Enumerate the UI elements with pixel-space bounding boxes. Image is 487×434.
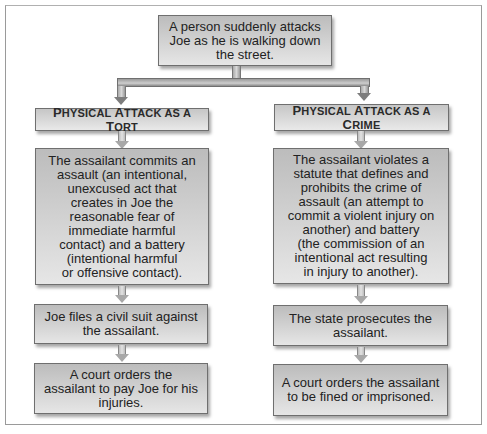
step-line: The state prosecutes the: [289, 312, 432, 326]
step-line: contact) and a battery: [48, 238, 195, 252]
header-text: P: [292, 103, 301, 118]
arrow-down-icon: [115, 354, 129, 362]
step-line: A court orders the: [44, 368, 198, 382]
crime-definition-box: The assailant violates a statute that de…: [273, 148, 449, 284]
header-text: HYSICAL: [301, 105, 354, 117]
arrow-down-icon: [357, 93, 371, 101]
step-line: assailant to pay Joe for his: [44, 382, 198, 396]
tort-header: PHYSICAL ATTACK AS A TORT: [35, 108, 209, 131]
step-line: the assailant.: [44, 324, 197, 338]
step-line: (intentional harmful: [48, 252, 195, 266]
crime-header: PHYSICAL ATTACK AS A CRIME: [274, 104, 449, 131]
step-line: prohibits the crime of: [288, 181, 435, 195]
step-line: statute that defines and: [288, 167, 435, 181]
header-text: A: [115, 105, 125, 120]
step-line: immediate harmful: [48, 224, 195, 238]
header-text: TTACK AS A: [124, 107, 191, 119]
header-text: RIME: [352, 119, 380, 131]
court-fine-box: A court orders the assailant to be fined…: [273, 364, 448, 416]
step-line: assault (an intentional,: [48, 168, 195, 182]
header-text: T: [106, 119, 114, 134]
step-line: commit a violent injury on: [288, 209, 435, 223]
step-line: in injury to another).: [288, 265, 435, 279]
header-text: A: [354, 103, 364, 118]
step-line: unexcused act that: [48, 182, 195, 196]
step-line: to be fined or imprisoned.: [282, 390, 440, 404]
step-line: The assailant violates a: [288, 153, 435, 167]
step-line: injuries.: [44, 396, 198, 410]
header-text: C: [343, 117, 353, 132]
step-line: The assailant commits an: [48, 154, 195, 168]
civil-suit-box: Joe files a civil suit against the assai…: [34, 304, 208, 344]
root-line: A person suddenly attacks: [169, 20, 321, 34]
state-prosecutes-box: The state prosecutes the assailant.: [273, 305, 448, 346]
step-line: reasonable fear of: [48, 210, 195, 224]
step-line: A court orders the assailant: [282, 376, 440, 390]
arrow-down-icon: [354, 296, 368, 304]
step-line: creates in Joe the: [48, 196, 195, 210]
root-line: the street.: [169, 48, 321, 62]
header-text: HYSICAL: [62, 107, 115, 119]
step-line: assailant.: [289, 326, 432, 340]
branch-connector-bar: [117, 78, 370, 87]
root-line: Joe as he is walking down: [169, 34, 321, 48]
header-text: P: [53, 105, 62, 120]
arrow-down-icon: [115, 295, 129, 303]
step-line: or offensive contact).: [48, 266, 195, 280]
court-pay-box: A court orders the assailant to pay Joe …: [34, 363, 208, 414]
tort-definition-box: The assailant commits an assault (an int…: [35, 148, 209, 285]
root-event-box: A person suddenly attacks Joe as he is w…: [158, 15, 332, 66]
step-line: assault (an attempt to: [288, 195, 435, 209]
header-text: TTACK AS A: [364, 105, 431, 117]
step-line: (the commission of an: [288, 237, 435, 251]
arrow-down-icon: [354, 355, 368, 363]
step-line: intentional act resulting: [288, 251, 435, 265]
step-line: Joe files a civil suit against: [44, 310, 197, 324]
step-line: another) and battery: [288, 223, 435, 237]
